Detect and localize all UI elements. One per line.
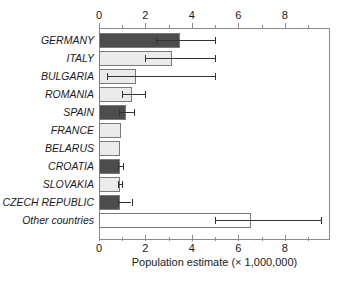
- bar-row: Other countries: [0, 211, 345, 229]
- axis-tick-label-bot-2: 2: [135, 242, 155, 254]
- axis-tick-bot-6: [238, 235, 239, 241]
- category-label-romania: ROMANIA: [0, 85, 94, 103]
- bar-belarus: [99, 141, 120, 156]
- x-axis-title: Population estimate (× 1,000,000): [99, 256, 330, 268]
- error-bar-line: [107, 76, 215, 77]
- axis-tick-label-bot-0: 0: [89, 242, 109, 254]
- category-label-bulgaria: BULGARIA: [0, 67, 94, 85]
- category-label-spain: SPAIN: [0, 103, 94, 121]
- error-bar-cap-high: [321, 217, 322, 224]
- axis-tick-bot-2: [145, 235, 146, 241]
- axis-tick-top-6: [238, 23, 239, 29]
- error-bar-cap-high: [123, 163, 124, 170]
- axis-tick-top-4: [192, 23, 193, 29]
- bar-croatia: [99, 159, 120, 174]
- axis-tick-bot-4: [192, 235, 193, 241]
- error-bar-cap-low: [107, 73, 108, 80]
- axis-tick-label-top-0: 0: [89, 9, 109, 21]
- error-bar-cap-high: [134, 109, 135, 116]
- axis-tick-top-0: [99, 23, 100, 29]
- axis-tick-bot-5: [215, 237, 216, 241]
- error-bar-line: [119, 112, 134, 113]
- bar-slovakia: [99, 177, 120, 192]
- category-label-belarus: BELARUS: [0, 139, 94, 157]
- axis-tick-top-9: [308, 25, 309, 29]
- error-bar-cap-high: [145, 91, 146, 98]
- category-label-other-countries: Other countries: [0, 211, 94, 229]
- category-label-czech-republic: CZECH REPUBLIC: [0, 193, 94, 211]
- error-bar-cap-low: [215, 217, 216, 224]
- axis-tick-label-top-4: 4: [182, 9, 202, 21]
- error-bar-cap-low: [122, 91, 123, 98]
- axis-tick-top-7: [262, 25, 263, 29]
- error-bar-cap-high: [215, 73, 216, 80]
- axis-tick-bot-1: [122, 237, 123, 241]
- error-bar-cap-low: [156, 37, 157, 44]
- axis-tick-top-2: [145, 23, 146, 29]
- axis-tick-top-8: [285, 23, 286, 29]
- axis-tick-bot-0: [99, 235, 100, 241]
- error-bar-cap-low: [145, 55, 146, 62]
- category-label-italy: ITALY: [0, 49, 94, 67]
- category-label-france: FRANCE: [0, 121, 94, 139]
- error-bar-cap-low: [118, 199, 119, 206]
- error-bar-cap-high: [122, 181, 123, 188]
- error-bar-line: [118, 202, 132, 203]
- axis-tick-label-bot-8: 8: [275, 242, 295, 254]
- population-estimate-bar-chart: 0022446688 GERMANYITALYBULGARIAROMANIASP…: [0, 0, 345, 288]
- axis-tick-top-1: [122, 25, 123, 29]
- error-bar-cap-high: [215, 37, 216, 44]
- category-label-croatia: CROATIA: [0, 157, 94, 175]
- bar-row: SPAIN: [0, 103, 345, 121]
- axis-tick-label-bot-4: 4: [182, 242, 202, 254]
- bar-row: BULGARIA: [0, 67, 345, 85]
- axis-tick-bot-8: [285, 235, 286, 241]
- axis-tick-label-bot-6: 6: [228, 242, 248, 254]
- axis-tick-label-top-8: 8: [275, 9, 295, 21]
- bar-row: SLOVAKIA: [0, 175, 345, 193]
- axis-tick-top-5: [215, 25, 216, 29]
- category-label-germany: GERMANY: [0, 31, 94, 49]
- category-label-slovakia: SLOVAKIA: [0, 175, 94, 193]
- bar-row: GERMANY: [0, 31, 345, 49]
- error-bar-cap-high: [215, 55, 216, 62]
- error-bar-line: [215, 220, 321, 221]
- error-bar-line: [122, 94, 145, 95]
- axis-tick-label-top-6: 6: [228, 9, 248, 21]
- error-bar-line: [156, 40, 215, 41]
- axis-tick-label-top-2: 2: [135, 9, 155, 21]
- bar-row: CZECH REPUBLIC: [0, 193, 345, 211]
- bar-row: BELARUS: [0, 139, 345, 157]
- error-bar-cap-high: [132, 199, 133, 206]
- axis-tick-bot-9: [308, 237, 309, 241]
- bar-row: ROMANIA: [0, 85, 345, 103]
- error-bar-line: [145, 58, 215, 59]
- bar-row: FRANCE: [0, 121, 345, 139]
- bar-row: CROATIA: [0, 157, 345, 175]
- axis-tick-bot-7: [262, 237, 263, 241]
- axis-tick-bot-3: [169, 237, 170, 241]
- error-bar-cap-low: [118, 181, 119, 188]
- error-bar-cap-low: [118, 163, 119, 170]
- bar-france: [99, 123, 121, 138]
- error-bar-cap-low: [119, 109, 120, 116]
- bar-row: ITALY: [0, 49, 345, 67]
- axis-tick-top-3: [169, 25, 170, 29]
